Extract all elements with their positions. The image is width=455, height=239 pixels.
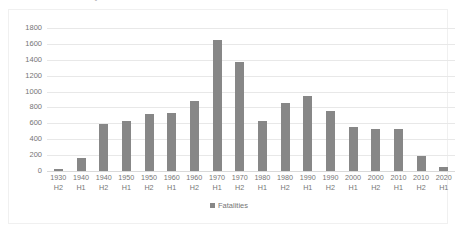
x-axis-labels: 1930H21940H11940H21950H11950H21960H11960… bbox=[47, 173, 455, 192]
bar-slot bbox=[138, 28, 161, 171]
x-axis-tick-label: 1980H1 bbox=[251, 173, 274, 192]
bar-slot bbox=[296, 28, 319, 171]
bar[interactable] bbox=[167, 113, 176, 171]
bar[interactable] bbox=[417, 156, 426, 171]
gridline: 0 bbox=[47, 171, 455, 172]
x-axis-tick-label: 1990H1 bbox=[296, 173, 319, 192]
bar[interactable] bbox=[145, 114, 154, 171]
bar-slot bbox=[183, 28, 206, 171]
bar[interactable] bbox=[303, 96, 312, 171]
bar-slot bbox=[228, 28, 251, 171]
bar[interactable] bbox=[258, 121, 267, 171]
x-axis-tick-label: 1990H2 bbox=[319, 173, 342, 192]
bar[interactable] bbox=[190, 101, 199, 171]
cropped-title-remnant: Fatalities in major aviation accidents bbox=[0, 0, 455, 8]
bar-slot bbox=[364, 28, 387, 171]
y-axis-tick-label: 1400 bbox=[25, 56, 42, 64]
bar-slot bbox=[47, 28, 70, 171]
y-axis-tick-label: 1000 bbox=[25, 88, 42, 96]
bar-slot bbox=[342, 28, 365, 171]
cropped-title-text: Fatalities in major aviation accidents bbox=[18, 0, 202, 1]
x-axis-tick-label: 1950H1 bbox=[115, 173, 138, 192]
bar-slot bbox=[432, 28, 455, 171]
x-axis-tick-label: 2000H1 bbox=[342, 173, 365, 192]
bar-slot bbox=[92, 28, 115, 171]
bars-group bbox=[47, 28, 455, 171]
bar[interactable] bbox=[349, 127, 358, 171]
x-axis-tick-label: 2010H2 bbox=[410, 173, 433, 192]
x-axis-tick-label: 1930H2 bbox=[47, 173, 70, 192]
plot-area: 180016001400120010008006004002000 bbox=[47, 28, 455, 171]
x-axis-tick-label: 1960H1 bbox=[160, 173, 183, 192]
y-axis-tick-label: 1800 bbox=[25, 24, 42, 32]
bar-slot bbox=[251, 28, 274, 171]
bar-slot bbox=[160, 28, 183, 171]
bar[interactable] bbox=[371, 129, 380, 171]
x-axis-tick-label: 1950H2 bbox=[138, 173, 161, 192]
x-axis-tick-label: 1940H2 bbox=[92, 173, 115, 192]
bar-slot bbox=[115, 28, 138, 171]
x-axis-tick-label: 2010H1 bbox=[387, 173, 410, 192]
bar[interactable] bbox=[54, 169, 63, 171]
y-axis-tick-label: 600 bbox=[29, 120, 42, 128]
y-axis-tick-label: 0 bbox=[38, 167, 42, 175]
bar-slot bbox=[70, 28, 93, 171]
chart-container: 180016001400120010008006004002000 1930H2… bbox=[8, 9, 448, 224]
x-axis-tick-label: 2000H2 bbox=[364, 173, 387, 192]
y-axis-tick-label: 1200 bbox=[25, 72, 42, 80]
bar-slot bbox=[387, 28, 410, 171]
y-axis-tick-label: 400 bbox=[29, 135, 42, 143]
bar-slot bbox=[410, 28, 433, 171]
x-axis-tick-label: 1970H2 bbox=[228, 173, 251, 192]
bar[interactable] bbox=[99, 124, 108, 171]
legend-label: Fatalities bbox=[218, 202, 248, 210]
y-axis-tick-label: 1600 bbox=[25, 40, 42, 48]
bar[interactable] bbox=[122, 121, 131, 171]
legend-swatch-icon bbox=[210, 203, 215, 208]
bar-slot bbox=[274, 28, 297, 171]
bar[interactable] bbox=[281, 103, 290, 171]
bar[interactable] bbox=[326, 111, 335, 171]
bar[interactable] bbox=[235, 62, 244, 171]
bar[interactable] bbox=[439, 167, 448, 171]
y-axis-tick-label: 800 bbox=[29, 104, 42, 112]
x-axis-tick-label: 2020H1 bbox=[432, 173, 455, 192]
x-axis-tick-label: 1970H1 bbox=[206, 173, 229, 192]
bar-slot bbox=[206, 28, 229, 171]
chart-legend: Fatalities bbox=[9, 202, 449, 210]
bar-slot bbox=[319, 28, 342, 171]
x-axis-tick-label: 1960H2 bbox=[183, 173, 206, 192]
bar[interactable] bbox=[213, 40, 222, 171]
bar[interactable] bbox=[394, 129, 403, 172]
x-axis-tick-label: 1940H1 bbox=[70, 173, 93, 192]
bar[interactable] bbox=[77, 158, 86, 171]
x-axis-tick-label: 1980H2 bbox=[274, 173, 297, 192]
y-axis-tick-label: 200 bbox=[29, 151, 42, 159]
